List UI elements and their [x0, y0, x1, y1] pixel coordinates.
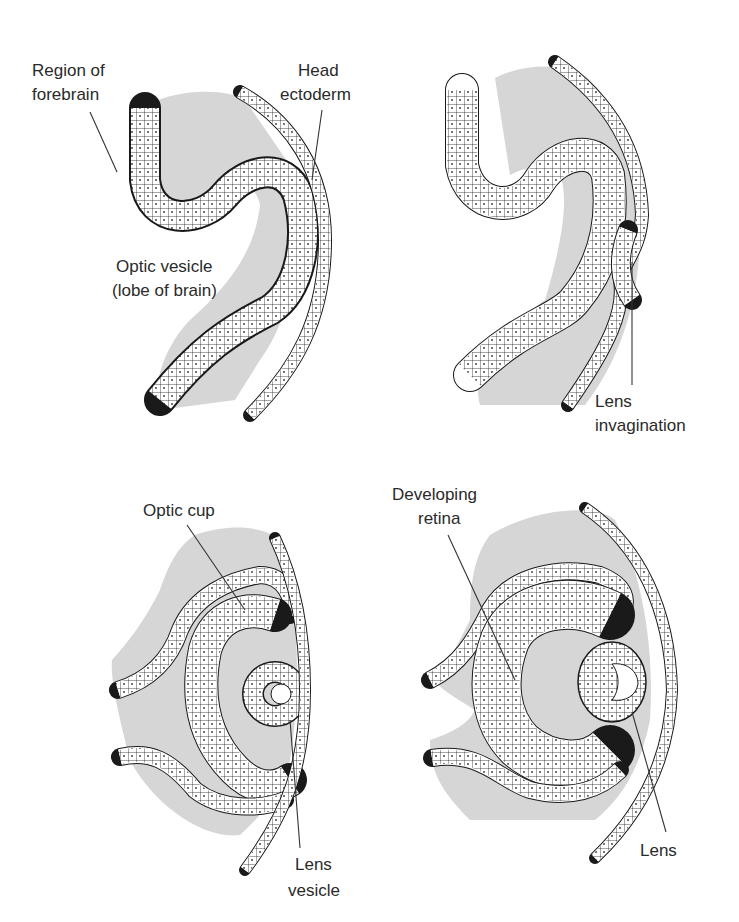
- panel-4-retina-and-lens: Developing retina Lens: [392, 485, 677, 860]
- panel-2-lens-invagination: Lens invagination: [462, 62, 686, 435]
- label-optic-vesicle-line2: (lobe of brain): [112, 281, 217, 300]
- panel-3-optic-cup: Optic cup Lens vesicle: [112, 501, 340, 900]
- label-lens: Lens: [640, 841, 677, 860]
- label-optic-cup: Optic cup: [143, 501, 215, 520]
- leader-forebrain: [90, 112, 117, 172]
- label-lens-invagination-line2: invagination: [595, 416, 686, 435]
- eye-development-diagram: Region of forebrain Head ectoderm Optic …: [0, 0, 739, 922]
- label-developing-retina-line1: Developing: [392, 485, 477, 504]
- label-optic-vesicle-line1: Optic vesicle: [116, 257, 212, 276]
- panel-1-optic-vesicle: Region of forebrain Head ectoderm Optic …: [32, 61, 351, 415]
- label-lens-invagination-line1: Lens: [595, 392, 632, 411]
- label-forebrain-line1: Region of: [32, 61, 105, 80]
- label-lens-vesicle-line1: Lens: [295, 855, 332, 874]
- label-head-ectoderm-line1: Head: [298, 61, 339, 80]
- label-head-ectoderm-line2: ectoderm: [280, 85, 351, 104]
- label-developing-retina-line2: retina: [418, 509, 461, 528]
- label-forebrain-line2: forebrain: [32, 85, 99, 104]
- label-lens-vesicle-line2: vesicle: [288, 881, 340, 900]
